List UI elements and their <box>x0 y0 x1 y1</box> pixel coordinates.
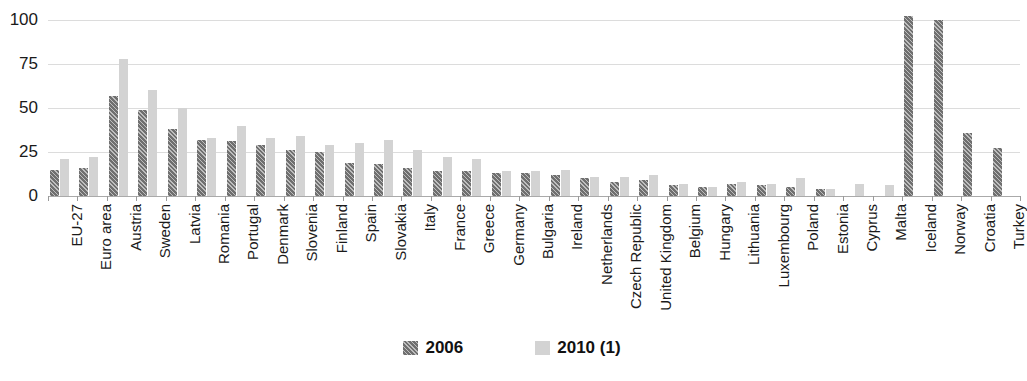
bar-2006 <box>610 182 619 196</box>
bar-2006 <box>315 152 324 196</box>
x-category-label: Netherlands <box>599 204 614 285</box>
x-category-label: Cyprus <box>864 204 879 252</box>
bar-2010-1- <box>502 171 511 196</box>
x-tick <box>519 196 520 201</box>
bar-2006 <box>521 173 530 196</box>
x-tick <box>107 196 108 201</box>
y-tick-label: 75 <box>19 54 38 74</box>
bar-2006 <box>433 171 442 196</box>
x-category-label: Greece <box>481 204 496 253</box>
legend-label-2006: 2006 <box>425 338 463 358</box>
bar-2006 <box>757 185 766 196</box>
x-tick <box>961 196 962 201</box>
x-tick <box>637 196 638 201</box>
bar-2006 <box>462 171 471 196</box>
bar-2006 <box>227 141 236 196</box>
bar-group <box>784 20 813 196</box>
bar-2010-1- <box>355 143 364 196</box>
bar-2010-1- <box>826 189 835 196</box>
bar-group <box>608 20 637 196</box>
bar-2010-1- <box>796 178 805 196</box>
bar-2010-1- <box>296 136 305 196</box>
bar-2010-1- <box>89 157 98 196</box>
y-tick-label: 25 <box>19 142 38 162</box>
bar-2010-1- <box>413 150 422 196</box>
x-category-label: Germany <box>511 204 526 266</box>
bar-group <box>195 20 224 196</box>
bar-group <box>725 20 754 196</box>
x-tick <box>991 196 992 201</box>
y-tick-label: 0 <box>29 186 38 206</box>
bar-2006 <box>138 110 147 196</box>
x-tick <box>48 196 49 201</box>
bar-2006 <box>286 150 295 196</box>
chart-legend: 2006 2010 (1) <box>0 338 1024 358</box>
bar-group <box>136 20 165 196</box>
x-category-label: Poland <box>805 204 820 251</box>
bar-2010-1- <box>737 182 746 196</box>
bar-group <box>460 20 489 196</box>
bar-group <box>48 20 77 196</box>
bar-group <box>755 20 784 196</box>
x-tick <box>460 196 461 201</box>
bar-group <box>401 20 430 196</box>
bar-group <box>490 20 519 196</box>
x-category-label: Euro area <box>98 204 113 270</box>
bar-group <box>578 20 607 196</box>
bar-group <box>843 20 872 196</box>
bar-group <box>932 20 961 196</box>
bar-2006 <box>669 185 678 196</box>
bar-group <box>77 20 106 196</box>
x-category-label: Denmark <box>275 204 290 265</box>
bar-2010-1- <box>325 145 334 196</box>
x-category-label: Slovenia <box>304 204 319 262</box>
bar-2006 <box>374 164 383 196</box>
bar-2010-1- <box>855 184 864 196</box>
x-tick <box>667 196 668 201</box>
x-category-label: Romania <box>216 204 231 264</box>
x-tick <box>578 196 579 201</box>
x-tick <box>1020 196 1021 201</box>
bar-2010-1- <box>531 171 540 196</box>
x-category-label: Luxembourg <box>776 204 791 287</box>
x-category-label: France <box>452 204 467 251</box>
bar-2010-1- <box>708 187 717 196</box>
x-category-label: Czech Republic <box>628 204 643 309</box>
bar-2010-1- <box>266 138 275 196</box>
bar-group <box>961 20 990 196</box>
bar-group <box>313 20 342 196</box>
x-category-label: Turkey <box>1011 204 1026 249</box>
x-category-label: Lithuania <box>746 204 761 265</box>
bar-2010-1- <box>148 90 157 196</box>
legend-swatch-2006-icon <box>403 341 418 355</box>
bar-2010-1- <box>590 177 599 196</box>
x-category-label: Portugal <box>245 204 260 260</box>
bar-2006 <box>168 129 177 196</box>
bar-group <box>696 20 725 196</box>
x-category-label: Finland <box>334 204 349 253</box>
bar-2006 <box>727 184 736 196</box>
x-category-label: Norway <box>952 204 967 255</box>
bar-2006 <box>79 168 88 196</box>
bar-2006 <box>403 168 412 196</box>
bar-2010-1- <box>885 185 894 196</box>
x-tick <box>431 196 432 201</box>
x-tick <box>814 196 815 201</box>
x-tick <box>225 196 226 201</box>
x-category-label: Ireland <box>569 204 584 250</box>
x-tick <box>313 196 314 201</box>
x-tick <box>932 196 933 201</box>
bar-2010-1- <box>237 126 246 196</box>
bar-2010-1- <box>119 59 128 196</box>
x-category-label: Estonia <box>835 204 850 254</box>
bar-2006 <box>492 173 501 196</box>
bar-2010-1- <box>472 159 481 196</box>
x-category-label: Slovakia <box>393 204 408 261</box>
x-category-label: Hungary <box>717 204 732 261</box>
bar-2010-1- <box>767 184 776 196</box>
bar-group <box>254 20 283 196</box>
bar-group <box>637 20 666 196</box>
x-tick <box>608 196 609 201</box>
bar-2006 <box>197 140 206 196</box>
